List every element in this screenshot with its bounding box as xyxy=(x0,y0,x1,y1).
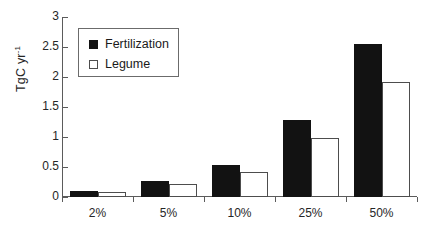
y-axis-tick-mark xyxy=(63,47,68,48)
legend-item-legume: Legume xyxy=(89,55,178,73)
x-axis-tick-mark xyxy=(346,197,347,202)
y-axis-tick-label: 0 xyxy=(52,189,59,203)
bar-fertilization-2pct xyxy=(70,191,98,197)
x-axis-tick-mark xyxy=(204,197,205,202)
bar-legume-2pct xyxy=(98,192,126,197)
bar-legume-5pct xyxy=(169,184,197,197)
y-axis-tick-mark xyxy=(63,107,68,108)
bar-legume-10pct xyxy=(240,172,268,197)
x-axis-tick-label: 25% xyxy=(298,206,322,220)
bar-legume-25pct xyxy=(311,138,339,197)
bar-legume-50pct xyxy=(382,82,410,197)
x-axis-tick-label: 10% xyxy=(227,206,251,220)
y-axis-label: TgC yr-1 xyxy=(14,22,32,92)
y-axis-tick-mark xyxy=(63,197,68,198)
bar-fertilization-50pct xyxy=(354,44,382,197)
y-axis-tick-label: 2.5 xyxy=(42,39,59,53)
y-axis-label-text: TgC yr xyxy=(14,53,28,92)
filled-square-icon xyxy=(89,40,98,49)
bar-fertilization-25pct xyxy=(283,120,311,197)
y-axis-tick-label: 3 xyxy=(52,9,59,23)
bar-chart: TgC yr-1 00.511.522.53 2%5%10%25%50% Fer… xyxy=(0,0,437,228)
y-axis-tick-label: 1 xyxy=(52,129,59,143)
legend-label-legume: Legume xyxy=(105,57,150,71)
legend-item-fertilization: Fertilization xyxy=(89,35,178,53)
legend-label-fertilization: Fertilization xyxy=(105,37,169,51)
y-axis-label-exponent: -1 xyxy=(13,46,22,54)
x-axis-tick-mark xyxy=(275,197,276,202)
y-axis-tick-mark xyxy=(63,137,68,138)
y-axis-tick-label: 0.5 xyxy=(42,159,59,173)
bar-fertilization-5pct xyxy=(141,181,169,197)
y-axis-tick-label: 1.5 xyxy=(42,99,59,113)
bar-fertilization-10pct xyxy=(212,165,240,197)
y-axis-tick-mark xyxy=(63,77,68,78)
x-axis-tick-label: 5% xyxy=(160,206,177,220)
y-axis-tick-mark xyxy=(63,167,68,168)
open-square-icon xyxy=(89,60,98,69)
x-axis-tick-mark xyxy=(62,197,63,202)
legend: Fertilization Legume xyxy=(78,28,179,77)
y-axis-tick-label: 2 xyxy=(52,69,59,83)
y-axis-tick-mark xyxy=(63,17,68,18)
x-axis-tick-mark xyxy=(417,197,418,202)
x-axis-tick-mark xyxy=(133,197,134,202)
x-axis-tick-label: 50% xyxy=(369,206,393,220)
x-axis-tick-label: 2% xyxy=(89,206,106,220)
